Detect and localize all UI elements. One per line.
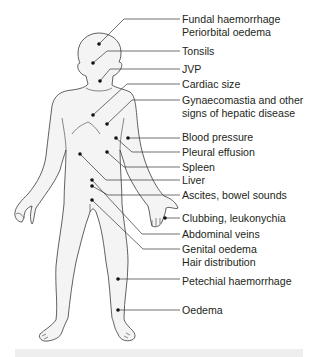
label-petechial: Petechial haemorrhage (182, 275, 292, 288)
dot-genital (90, 198, 94, 202)
label-bp: Blood pressure (182, 131, 253, 144)
dot-liver (78, 152, 82, 156)
dot-pleural (114, 136, 118, 140)
dot-oedema (116, 308, 120, 312)
label-tonsils: Tonsils (182, 45, 214, 58)
label-gynaecomastia: Gynaecomastia and other signs of hepatic… (182, 94, 303, 120)
dot-tonsils (91, 61, 95, 65)
dot-jvp (98, 79, 102, 83)
label-cardiac: Cardiac size (182, 78, 240, 91)
label-abdominal: Abdominal veins (182, 228, 260, 241)
body-examination-diagram: Fundal haemorrhage Periorbital oedema To… (0, 0, 315, 357)
label-genital: Genital oedema Hair distribution (182, 243, 257, 269)
label-pleural: Pleural effusion (182, 146, 255, 159)
dot-clubbing (163, 216, 167, 220)
dot-ascites (90, 184, 94, 188)
dot-cardiac (91, 113, 95, 117)
label-oedema: Oedema (182, 304, 223, 317)
label-liver: Liver (182, 174, 205, 187)
dot-petechial (116, 277, 120, 281)
footer-strip (15, 349, 303, 357)
label-fundal-line2: Periorbital oedema (182, 26, 280, 39)
label-genital-line1: Genital oedema (182, 243, 257, 256)
body-outline (15, 33, 178, 341)
label-ascites: Ascites, bowel sounds (182, 189, 287, 202)
label-genital-line2: Hair distribution (182, 256, 257, 269)
label-spleen: Spleen (182, 161, 215, 174)
dot-gynaecomastia (105, 122, 109, 126)
body-figure (0, 0, 315, 357)
dot-abdominal (90, 178, 94, 182)
label-gyn-line2: signs of hepatic disease (182, 107, 303, 120)
label-gyn-line1: Gynaecomastia and other (182, 94, 303, 107)
label-jvp: JVP (182, 63, 201, 76)
label-fundal-line1: Fundal haemorrhage (182, 13, 280, 26)
dot-spleen (105, 150, 109, 154)
dot-bp (126, 136, 130, 140)
label-fundal: Fundal haemorrhage Periorbital oedema (182, 13, 280, 39)
dot-fundal (97, 42, 101, 46)
label-clubbing: Clubbing, leukonychia (182, 212, 286, 225)
